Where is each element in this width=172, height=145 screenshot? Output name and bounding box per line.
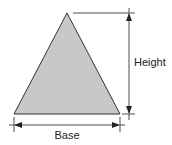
base-label: Base <box>54 129 79 141</box>
triangle-shape <box>14 13 120 114</box>
height-label: Height <box>134 56 166 68</box>
triangle-diagram: Height Base <box>0 0 172 145</box>
